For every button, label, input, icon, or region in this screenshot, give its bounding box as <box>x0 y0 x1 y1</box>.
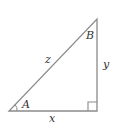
right-angle-marker <box>88 102 97 111</box>
hypotenuse-label: z <box>44 53 51 66</box>
angle-b-label: B <box>85 29 94 42</box>
angle-a-arc <box>15 105 17 112</box>
right-triangle-diagram: A B z y x <box>0 0 116 124</box>
vertical-side-label: y <box>102 58 110 71</box>
horizontal-side-label: x <box>49 112 56 124</box>
angle-a-label: A <box>21 98 30 111</box>
